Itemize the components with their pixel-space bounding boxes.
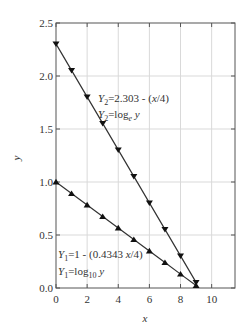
y-tick-label: 1.0: [39, 176, 53, 188]
chart: 02468100.00.51.01.52.02.5 x y Y2=2.303 -…: [0, 0, 248, 335]
triangle-down-marker-icon: [68, 68, 75, 74]
annotation-y2-line1: Y2=2.303 - (x/4): [98, 92, 169, 107]
x-tick-label: 4: [116, 293, 122, 305]
y-tick-label: 2.0: [39, 70, 53, 82]
x-tick-label: 10: [206, 293, 218, 305]
triangle-down-marker-icon: [115, 147, 122, 153]
triangle-down-marker-icon: [161, 227, 168, 233]
series-line: [56, 44, 196, 282]
x-tick-label: 8: [178, 293, 184, 305]
y-tick-label: 2.5: [39, 17, 53, 29]
annotation-y2-line2: Y2=loge y: [98, 108, 140, 123]
y-tick-label: 0.0: [39, 282, 53, 294]
y-axis-label: y: [10, 155, 22, 161]
triangle-down-marker-icon: [53, 41, 60, 47]
triangle-down-marker-icon: [130, 174, 137, 180]
triangle-down-marker-icon: [177, 253, 184, 259]
triangle-down-marker-icon: [146, 200, 153, 206]
annotation-y1-line2: Y1=log10 y: [58, 265, 104, 280]
annotation-y1-line1: Y1=1 - (0.4343 x/4): [58, 248, 143, 263]
x-axis-label: x: [142, 312, 148, 324]
y-tick-label: 0.5: [39, 229, 53, 241]
triangle-down-marker-icon: [84, 94, 91, 100]
y-tick-label: 1.5: [39, 123, 53, 135]
x-tick-label: 0: [53, 293, 59, 305]
x-tick-label: 6: [147, 293, 153, 305]
x-tick-label: 2: [84, 293, 90, 305]
axis-ticks: 02468100.00.51.01.52.02.5: [39, 17, 235, 305]
